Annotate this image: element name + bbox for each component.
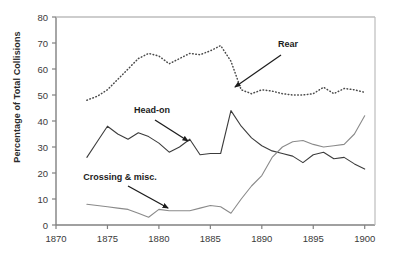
series-line-rear xyxy=(87,46,365,101)
collision-type-line-chart: Percentage of Total Collisions 010203040… xyxy=(0,0,394,257)
annotation-label-crossing-misc: Crossing & misc. xyxy=(83,172,157,182)
plot-area xyxy=(0,0,394,257)
annotation-label-head-on: Head-on xyxy=(134,105,170,115)
annotation-arrow-head-on xyxy=(155,120,188,141)
annotation-arrow-crossing-misc xyxy=(128,186,168,208)
series-line-head-on xyxy=(87,111,365,170)
annotation-label-rear: Rear xyxy=(278,39,298,49)
annotation-arrow-rear xyxy=(235,55,281,87)
